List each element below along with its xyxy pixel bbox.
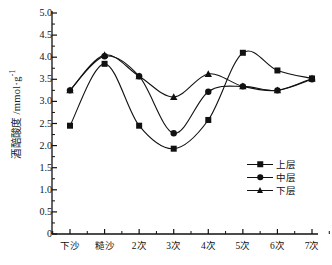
x-tick-label: 5次 bbox=[235, 242, 250, 252]
legend-label: 中层 bbox=[273, 170, 296, 184]
x-axis-tick-labels: 下沙糙沙2次3次4次5次6次7次 bbox=[0, 0, 332, 265]
legend-marker-triangle-icon bbox=[257, 187, 263, 193]
x-tick-label: 3次 bbox=[166, 242, 181, 252]
legend-marker-square-icon bbox=[257, 161, 263, 167]
legend-label: 下层 bbox=[273, 183, 296, 197]
legend-item[interactable]: 下层 bbox=[247, 184, 325, 196]
chart-figure: 酒醅酸度 /mmol·g-1 00.51.01.52.02.53.03.54.0… bbox=[0, 0, 332, 265]
legend-item[interactable]: 中层 bbox=[247, 171, 325, 183]
legend-item[interactable]: 上层 bbox=[247, 158, 325, 170]
x-tick-label: 糙沙 bbox=[95, 242, 115, 252]
legend-label: 上层 bbox=[273, 157, 296, 171]
x-tick-label: 6次 bbox=[270, 242, 285, 252]
legend-marker-circle-icon bbox=[257, 174, 263, 180]
chart-legend: 上层中层下层 bbox=[247, 158, 325, 197]
legend-swatch bbox=[247, 171, 273, 183]
x-tick-label: 7次 bbox=[305, 242, 320, 252]
x-tick-label: 4次 bbox=[201, 242, 216, 252]
x-tick-label: 2次 bbox=[132, 242, 147, 252]
legend-swatch bbox=[247, 158, 273, 170]
x-tick-label: 下沙 bbox=[60, 242, 80, 252]
legend-swatch bbox=[247, 184, 273, 196]
